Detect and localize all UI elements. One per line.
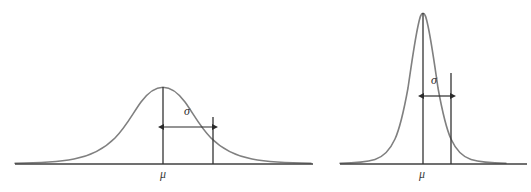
sigma-label-right: σ [431,74,437,86]
plot-canvas [0,0,531,192]
chart-right-group [340,13,527,164]
normal-distribution-figure: μ σ μ σ [0,0,531,192]
chart-left-group [15,87,313,164]
mean-label-left: μ [160,168,166,180]
mean-label-right: μ [419,168,425,180]
sigma-label-left: σ [184,105,190,117]
